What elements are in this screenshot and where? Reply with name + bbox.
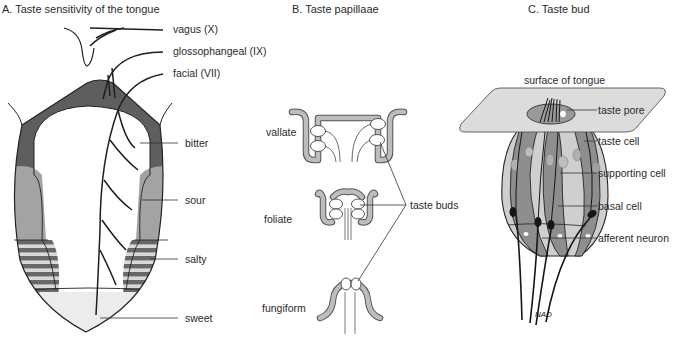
label-taste-cell: taste cell (598, 135, 639, 147)
label-basal-cell: basal cell (598, 200, 642, 212)
panel-c-taste-bud: C. Taste bud surface of tongue (460, 3, 670, 325)
label-taste-buds: taste buds (410, 199, 458, 211)
fungiform-papilla (320, 278, 380, 334)
salty-region-right (123, 240, 200, 300)
label-facial: facial (VII) (173, 67, 220, 79)
vallate-papilla (292, 112, 404, 162)
sour-region-left (0, 166, 46, 240)
label-taste-pore: taste pore (598, 104, 645, 116)
panel-a-title: A. Taste sensitivity of the tongue (2, 3, 160, 15)
epiglottis-outline (64, 28, 94, 66)
salty-region-left (0, 240, 59, 300)
label-sweet: sweet (185, 312, 213, 324)
label-bitter: bitter (185, 137, 209, 149)
panel-b-title: B. Taste papillaae (292, 3, 379, 15)
taste-bud-icon (311, 126, 326, 137)
panel-c-title: C. Taste bud (528, 3, 590, 15)
vagus-nerve (90, 28, 163, 30)
label-foliate: foliate (264, 213, 292, 225)
taste-diagram: A. Taste sensitivity of the tongue (0, 0, 674, 339)
panel-b-papillae: B. Taste papillaae vallate foliate (262, 3, 458, 334)
sweet-region (40, 292, 142, 339)
label-vallate: vallate (266, 126, 297, 138)
label-glossopharyngeal: glossophangeal (IX) (173, 45, 266, 57)
label-surface-of-tongue: surface of tongue (524, 74, 605, 86)
foliate-papilla (318, 192, 375, 240)
label-afferent-neuron: afferent neuron (598, 232, 669, 244)
artist-signature: NAD (535, 310, 552, 319)
label-vagus: vagus (X) (173, 23, 218, 35)
label-salty: salty (185, 253, 207, 265)
panel-a-tongue: A. Taste sensitivity of the tongue (0, 3, 266, 339)
label-fungiform: fungiform (262, 302, 306, 314)
label-sour: sour (185, 194, 206, 206)
label-supporting-cell: supporting cell (598, 167, 666, 179)
